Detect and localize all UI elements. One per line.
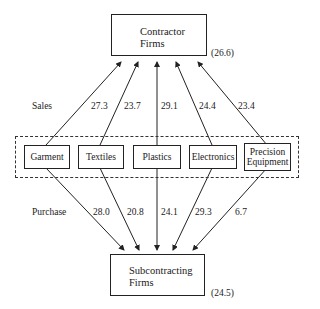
- subcontracting-label-1: Subcontracting: [129, 265, 204, 277]
- contractor-label-2: Firms: [140, 38, 206, 50]
- industry-garment: Garment: [24, 145, 70, 169]
- sales-value-precision: 23.4: [238, 101, 255, 111]
- industry-label: Precision: [250, 147, 285, 157]
- industry-plastics: Plastics: [133, 145, 181, 169]
- industry-label: Electronics: [192, 152, 235, 162]
- sales-row-label: Sales: [32, 101, 52, 111]
- industry-label: Garment: [30, 152, 63, 162]
- contractor-firms-node: Contractor Firms: [111, 14, 207, 56]
- industry-textiles: Textiles: [78, 145, 124, 169]
- sales-value-electronics: 24.4: [199, 101, 216, 111]
- purchase-value-plastics: 24.1: [161, 207, 178, 217]
- sales-value-plastics: 29.1: [161, 101, 178, 111]
- purchase-value-electronics: 29.3: [195, 207, 212, 217]
- industry-label: Plastics: [142, 152, 171, 162]
- industry-label: Textiles: [86, 152, 116, 162]
- purchase-row-label: Purchase: [32, 207, 66, 217]
- industry-precision-equipment: Precision Equipment: [244, 143, 291, 171]
- industry-label: Equipment: [247, 157, 289, 167]
- sales-value-garment: 27.3: [91, 101, 108, 111]
- contractor-label-1: Contractor: [140, 26, 206, 38]
- purchase-value-precision: 6.7: [235, 207, 247, 217]
- purchase-value-garment: 28.0: [93, 207, 110, 217]
- industry-electronics: Electronics: [189, 145, 237, 169]
- purchase-value-textiles: 20.8: [127, 207, 144, 217]
- subcontracting-firms-node: Subcontracting Firms: [110, 254, 205, 296]
- subcontracting-value: (24.5): [211, 288, 234, 298]
- contractor-value: (26.6): [211, 48, 234, 58]
- sales-arrow-garment: [46, 62, 121, 145]
- subcontracting-label-2: Firms: [129, 277, 204, 289]
- sales-value-textiles: 23.7: [124, 101, 141, 111]
